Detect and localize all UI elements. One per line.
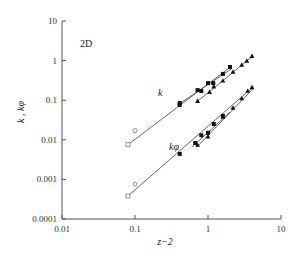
filled-square-marker [221, 72, 225, 76]
open-circle-marker [133, 129, 137, 133]
open-square-marker [126, 143, 130, 147]
open-square-marker [126, 194, 130, 198]
series-label-kphi: kφ [169, 141, 179, 152]
y-tick-label: 0.1 [46, 95, 57, 105]
filled-square-marker [178, 101, 182, 105]
fit-line [128, 87, 254, 196]
y-tick-label: 0.001 [37, 174, 57, 184]
y-tick-label: 10 [48, 16, 58, 26]
series-label-k: k [158, 87, 163, 98]
x-tick-label: 0.1 [129, 224, 140, 234]
y-tick-label: 0.01 [41, 135, 57, 145]
filled-square-marker [211, 81, 215, 85]
fit-lines [128, 55, 254, 196]
x-tick-label: 0.01 [54, 224, 70, 234]
filled-triangle-marker [244, 58, 249, 62]
x-tick-label: 1 [206, 224, 211, 234]
y-tick-label: 1 [53, 56, 58, 66]
panel-label: 2D [80, 38, 92, 49]
filled-square-marker [199, 89, 203, 93]
filled-triangle-marker [239, 62, 244, 66]
x-tick-label: 10 [277, 224, 287, 234]
filled-square-marker [199, 133, 203, 137]
y-tick-label: 0.0001 [32, 214, 57, 224]
fit-line [197, 88, 254, 147]
axes: 1010.10.010.0010.00010.010.1110 [32, 16, 286, 234]
filled-square-marker [206, 81, 210, 85]
data-points [126, 53, 254, 198]
x-axis-title: z−2 [156, 236, 173, 247]
filled-square-marker [212, 122, 216, 126]
filled-square-marker [228, 65, 232, 69]
filled-square-marker [178, 152, 182, 156]
chart: 1010.10.010.0010.00010.010.1110 2D k kφ … [0, 0, 298, 259]
y-axis-title: k , kφ [15, 101, 26, 123]
open-circle-marker [133, 182, 137, 186]
filled-triangle-marker [231, 69, 236, 73]
filled-square-marker [196, 88, 200, 92]
filled-triangle-marker [195, 98, 200, 102]
